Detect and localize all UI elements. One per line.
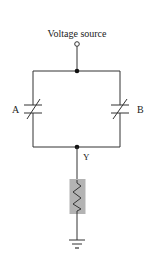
voltage-source-label: Voltage source	[48, 28, 108, 39]
circuit-diagram: Voltage source A B Y	[0, 0, 152, 263]
junction-top-icon	[75, 69, 80, 74]
resistor	[70, 179, 86, 214]
capacitor-a	[24, 71, 42, 147]
label-a: A	[12, 104, 20, 115]
ground-icon	[69, 240, 85, 248]
source-terminal-icon	[75, 42, 80, 47]
capacitor-b	[111, 71, 129, 147]
label-y: Y	[83, 152, 90, 162]
label-b: B	[137, 104, 144, 115]
